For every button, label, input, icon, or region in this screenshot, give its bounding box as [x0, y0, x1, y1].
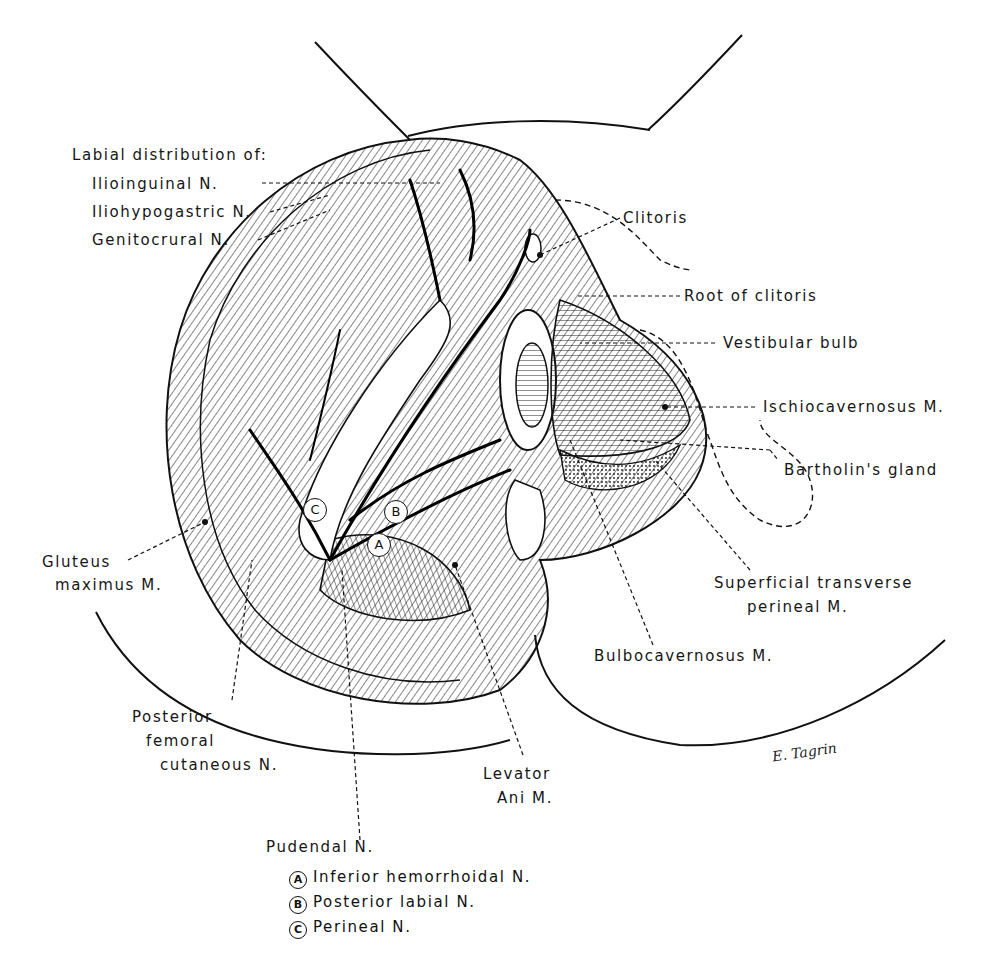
label-labial-heading: Labial distribution of: — [72, 145, 267, 165]
label-posterior-3: cutaneous N. — [160, 755, 278, 775]
label-ischiocavernosus: Ischiocavernosus M. — [763, 397, 944, 417]
marker-b: B — [384, 500, 408, 524]
marker-a: A — [367, 533, 391, 557]
legend-text-c: Perineal N. — [313, 918, 412, 936]
label-levator-1: Levator — [483, 764, 551, 784]
marker-c: C — [303, 498, 327, 522]
legend-text-b: Posterior labial N. — [313, 893, 476, 911]
legend-marker-b: B — [289, 896, 307, 914]
label-clitoris: Clitoris — [623, 208, 688, 228]
legend-marker-a: A — [289, 871, 307, 889]
label-levator-2: Ani M. — [497, 788, 553, 808]
legend-item-a: AInferior hemorrhoidal N. — [289, 868, 531, 889]
label-posterior-2: femoral — [146, 731, 215, 751]
label-vestibular-bulb: Vestibular bulb — [723, 333, 859, 353]
anatomy-illustration — [0, 0, 984, 960]
label-bartholins-gland: Bartholin's gland — [784, 460, 938, 480]
label-genitocrural: Genitocrural N. — [92, 230, 230, 250]
legend-item-b: BPosterior labial N. — [289, 893, 476, 914]
legend-marker-c: C — [289, 921, 307, 939]
label-bulbocavernosus: Bulbocavernosus M. — [594, 646, 773, 666]
label-posterior-1: Posterior — [132, 707, 213, 727]
legend-text-a: Inferior hemorrhoidal N. — [313, 868, 531, 886]
label-ilioinguinal: Ilioinguinal N. — [92, 174, 218, 194]
label-iliohypogastric: Iliohypogastric N. — [92, 202, 252, 222]
label-gluteus-1: Gluteus — [42, 552, 111, 572]
label-root-of-clitoris: Root of clitoris — [684, 286, 817, 306]
legend-item-c: CPerineal N. — [289, 918, 412, 939]
label-pudendal: Pudendal N. — [266, 837, 374, 857]
label-gluteus-2: maximus M. — [55, 575, 162, 595]
label-superficial-1: Superficial transverse — [714, 573, 913, 593]
label-superficial-2: perineal M. — [747, 597, 848, 617]
